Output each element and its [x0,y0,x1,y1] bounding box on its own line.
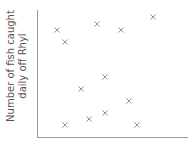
data-point-x-marker [86,116,91,121]
data-point-x-marker [62,122,67,127]
data-point-x-marker [134,122,139,127]
data-point-x-marker [126,98,131,103]
data-point-x-marker [78,86,83,91]
data-point-x-marker [102,74,107,79]
data-point-x-marker [102,110,107,115]
axes [37,10,188,138]
data-points [54,14,155,127]
data-point-x-marker [118,27,123,32]
data-point-x-marker [62,39,67,44]
scatter-plot [0,0,190,146]
data-point-x-marker [94,21,99,26]
data-point-x-marker [54,27,59,32]
data-point-x-marker [150,14,155,19]
